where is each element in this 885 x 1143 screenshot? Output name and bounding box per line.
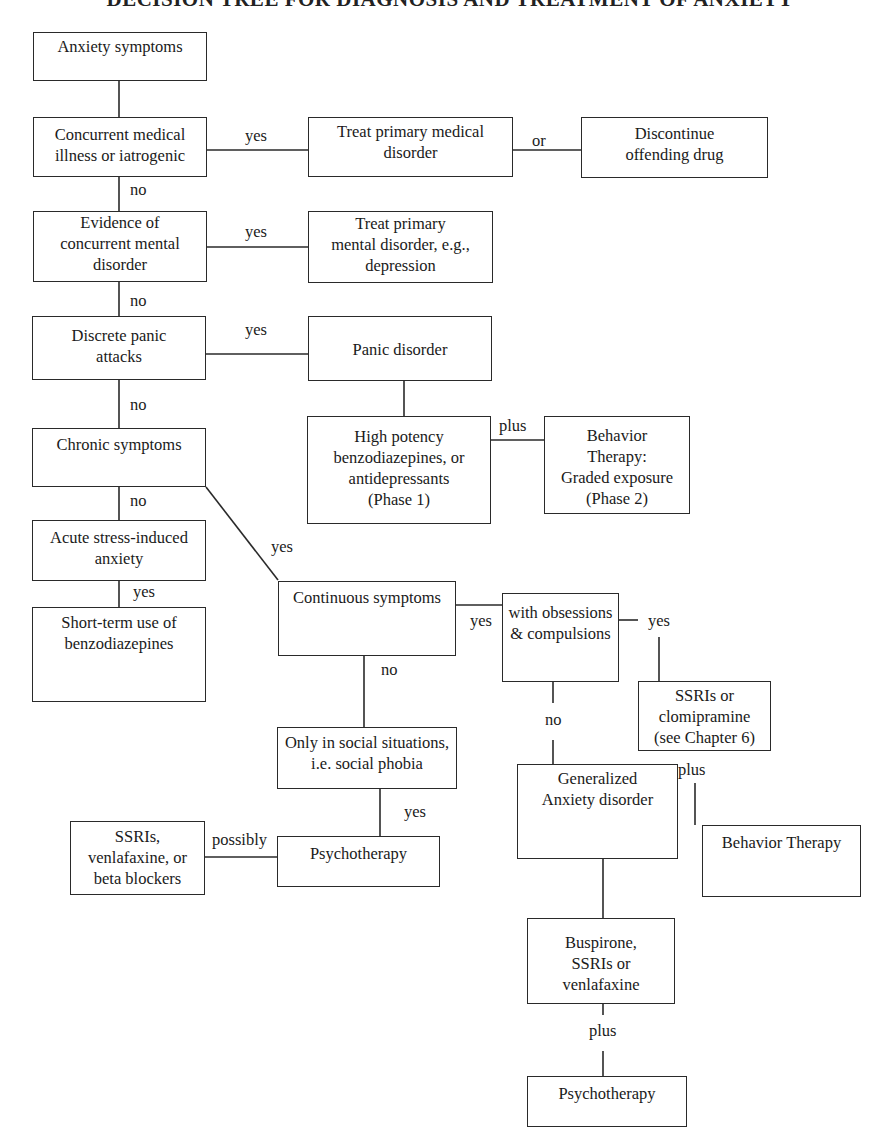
node-social-situations: Only in social situations, i.e. social p… <box>277 727 457 789</box>
node-chronic-symptoms: Chronic symptoms <box>32 428 206 487</box>
node-treat-mental: Treat primary mental disorder, e.g., dep… <box>308 211 493 283</box>
node-buspirone: Buspirone, SSRIs or venlafaxine <box>527 918 675 1004</box>
node-text: Discrete panic <box>33 325 205 346</box>
node-text: venlafaxine <box>528 974 674 995</box>
node-text: Psychotherapy <box>528 1083 686 1104</box>
edge-label-or: or <box>532 132 546 150</box>
node-text: Behavior Therapy <box>703 832 860 853</box>
node-text: Discontinue <box>582 123 767 144</box>
edge-label-no: no <box>130 396 147 414</box>
edge-label-yes: yes <box>245 127 267 145</box>
edge-label-no: no <box>130 492 147 510</box>
node-discrete-panic: Discrete panic attacks <box>32 316 206 380</box>
node-obsessions: with obsessions & compulsions <box>502 593 619 682</box>
node-text: Short-term use of <box>33 612 205 633</box>
node-text: High potency <box>308 426 490 447</box>
node-text: disorder <box>34 254 206 275</box>
node-text: depression <box>309 255 492 276</box>
node-psychotherapy-gad: Psychotherapy <box>527 1076 687 1127</box>
node-text: mental disorder, e.g., <box>309 234 492 255</box>
node-acute-stress: Acute stress-induced anxiety <box>32 520 206 581</box>
node-text: Generalized <box>518 768 677 789</box>
node-text: attacks <box>33 346 205 367</box>
node-text: i.e. social phobia <box>278 753 456 774</box>
node-high-potency: High potency benzodiazepines, or antidep… <box>307 416 491 524</box>
edge-label-no: no <box>545 711 562 729</box>
node-anxiety-symptoms: Anxiety symptoms <box>33 32 207 81</box>
node-text: Psychotherapy <box>278 843 439 864</box>
edge-label-no: no <box>130 181 147 199</box>
node-text: beta blockers <box>71 868 204 889</box>
edge-label-no: no <box>130 292 147 310</box>
node-text: Behavior <box>545 425 689 446</box>
node-text: Evidence of <box>34 212 206 233</box>
node-text: benzodiazepines, or <box>308 447 490 468</box>
node-text: Panic disorder <box>309 339 491 360</box>
node-text: illness or iatrogenic <box>34 145 206 166</box>
edge-label-yes: yes <box>648 612 670 630</box>
node-ssri-clomipramine: SSRIs or clomipramine (see Chapter 6) <box>638 681 771 751</box>
node-text: Treat primary medical <box>309 121 512 142</box>
node-text: Therapy: <box>545 446 689 467</box>
node-text: anxiety <box>33 548 205 569</box>
node-text: Anxiety disorder <box>518 789 677 810</box>
edge-label-yes: yes <box>245 223 267 241</box>
node-behavior-graded: Behavior Therapy: Graded exposure (Phase… <box>544 416 690 514</box>
node-text: SSRIs or <box>639 685 770 706</box>
edge-label-yes: yes <box>271 538 293 556</box>
node-text: (Phase 2) <box>545 488 689 509</box>
edge-label-plus: plus <box>589 1022 617 1040</box>
node-behavior-therapy: Behavior Therapy <box>702 825 861 897</box>
node-text: (see Chapter 6) <box>639 727 770 748</box>
node-text: Only in social situations, <box>278 732 456 753</box>
node-treat-medical: Treat primary medical disorder <box>308 117 513 177</box>
node-concurrent-mental: Evidence of concurrent mental disorder <box>33 211 207 282</box>
edge-label-no: no <box>381 661 398 679</box>
node-psychotherapy-social: Psychotherapy <box>277 836 440 887</box>
node-text: with obsessions <box>503 602 618 623</box>
node-generalized-anxiety: Generalized Anxiety disorder <box>517 764 678 859</box>
node-text: SSRIs or <box>528 953 674 974</box>
edge-label-possibly: possibly <box>212 831 267 849</box>
node-text: Acute stress-induced <box>33 527 205 548</box>
node-text: benzodiazepines <box>33 633 205 654</box>
node-text: Graded exposure <box>545 467 689 488</box>
node-concurrent-medical: Concurrent medical illness or iatrogenic <box>33 117 207 177</box>
node-text: (Phase 1) <box>308 489 490 510</box>
edge-label-plus: plus <box>678 761 706 779</box>
node-text: & compulsions <box>503 623 618 644</box>
node-continuous-symptoms: Continuous symptoms <box>278 581 456 656</box>
edge-label-plus: plus <box>499 417 527 435</box>
node-text: SSRIs, <box>71 826 204 847</box>
edge-label-yes: yes <box>245 321 267 339</box>
node-text: antidepressants <box>308 468 490 489</box>
node-panic-disorder: Panic disorder <box>308 316 492 381</box>
node-text: disorder <box>309 142 512 163</box>
node-text: Continuous symptoms <box>279 587 455 608</box>
node-text: clomipramine <box>639 706 770 727</box>
node-short-term-benzo: Short-term use of benzodiazepines <box>32 607 206 702</box>
node-discontinue-drug: Discontinue offending drug <box>581 117 768 178</box>
edge-label-yes: yes <box>470 612 492 630</box>
node-text: Buspirone, <box>528 932 674 953</box>
node-text: Anxiety symptoms <box>34 36 206 57</box>
edge-label-yes: yes <box>404 803 426 821</box>
node-text: Treat primary <box>309 213 492 234</box>
node-text: venlafaxine, or <box>71 847 204 868</box>
node-text: concurrent mental <box>34 233 206 254</box>
node-text: offending drug <box>582 144 767 165</box>
node-text: Chronic symptoms <box>33 434 205 455</box>
node-text: Concurrent medical <box>34 124 206 145</box>
edge-label-yes: yes <box>133 583 155 601</box>
node-ssri-beta: SSRIs, venlafaxine, or beta blockers <box>70 821 205 895</box>
